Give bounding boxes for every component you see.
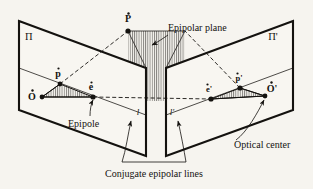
label-conjugate-epipolar-lines: Conjugate epipolar lines bbox=[105, 168, 203, 179]
diagram-canvas: P p e O e' p' O' Π Π' bbox=[0, 0, 313, 189]
label-plane-left: Π bbox=[25, 31, 33, 42]
label-right-image-point-p-prime: p' bbox=[235, 73, 242, 83]
overdot-p-prime bbox=[236, 72, 238, 74]
label-plane-right: Π' bbox=[268, 31, 278, 42]
dot-scene-point-P bbox=[125, 28, 130, 33]
label-left-optical-center-O: O bbox=[28, 91, 36, 102]
overdot-e bbox=[90, 81, 92, 83]
label-right-optical-center-O-prime: O' bbox=[267, 83, 278, 94]
epipolar-geometry-figure: P p e O e' p' O' Π Π' bbox=[0, 0, 313, 189]
dot-right-image-point-p-prime bbox=[237, 85, 242, 90]
dot-left-image-point-p bbox=[58, 82, 63, 87]
label-epipolar-plane: Epipolar plane bbox=[168, 22, 227, 33]
overdot-p bbox=[57, 67, 59, 69]
overdot-O bbox=[31, 89, 33, 91]
dot-right-epipole-e-prime bbox=[208, 96, 213, 101]
label-right-epipole-e-prime: e' bbox=[206, 84, 212, 94]
overdot-e-prime bbox=[206, 83, 208, 85]
overdot-O-prime bbox=[270, 81, 272, 83]
dot-right-optical-center-O-prime bbox=[263, 94, 268, 99]
label-scene-point-P: P bbox=[125, 13, 131, 24]
label-left-image-point-p: p bbox=[55, 68, 61, 79]
dot-left-optical-center-O bbox=[40, 95, 45, 100]
label-optical-center: Optical center bbox=[234, 139, 291, 150]
label-epipole: Epipole bbox=[68, 118, 100, 129]
dot-left-epipole-e bbox=[90, 94, 95, 99]
overdot-P bbox=[127, 12, 129, 14]
